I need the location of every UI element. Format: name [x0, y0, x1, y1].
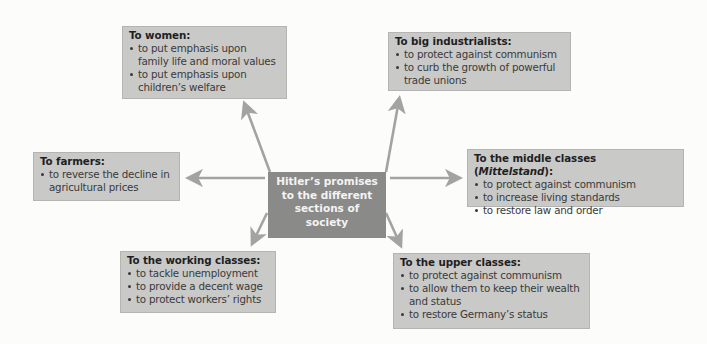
industrialists-promises-box: To big industrialists: to protect agains…	[388, 32, 571, 91]
industrialists-list: to protect against communism to curb the…	[395, 48, 565, 87]
list-item: to put emphasis upon children’s welfare	[129, 68, 281, 94]
title-text: ):	[544, 165, 553, 177]
list-item: to restore law and order	[474, 204, 678, 217]
list-item: to restore Germany’s status	[400, 308, 584, 321]
item-text: to tackle unemployment	[136, 267, 258, 279]
working-classes-promises-box: To the working classes: to tackle unempl…	[120, 251, 276, 313]
item-text: to restore Germany’s status	[409, 308, 548, 320]
item-text: to provide a decent wage	[136, 280, 263, 292]
central-topic-line: to the different	[272, 189, 382, 203]
list-item: to protect against communism	[395, 48, 565, 61]
central-topic-line: society	[272, 216, 382, 230]
arrow-to-working	[253, 213, 267, 242]
item-text: to protect against communism	[404, 48, 557, 60]
arrow-to-industrialists	[386, 100, 399, 172]
upper-classes-title: To the upper classes:	[400, 256, 584, 269]
list-item: to protect workers’ rights	[127, 293, 270, 306]
item-text: to put emphasis upon	[138, 68, 246, 80]
item-text: children’s welfare	[138, 81, 226, 93]
arrow-to-women	[245, 105, 270, 172]
list-item: to allow them to keep their wealth and s…	[400, 282, 584, 308]
item-text: to curb the growth of powerful	[404, 61, 555, 73]
middle-classes-title: To the middle classes (Mittelstand):	[474, 152, 678, 178]
middle-classes-promises-box: To the middle classes (Mittelstand): to …	[467, 149, 684, 207]
list-item: to put emphasis upon family life and mor…	[129, 42, 281, 68]
item-text: and status	[409, 295, 461, 307]
middle-classes-list: to protect against communism to increase…	[474, 178, 678, 217]
arrow-to-upper	[386, 213, 400, 244]
women-list: to put emphasis upon family life and mor…	[129, 42, 281, 94]
item-text: agricultural prices	[49, 181, 138, 193]
item-text: to protect against communism	[483, 178, 636, 190]
list-item: to protect against communism	[474, 178, 678, 191]
list-item: to reverse the decline in agricultural p…	[40, 168, 174, 194]
central-topic-line: Hitler’s promises	[272, 175, 382, 189]
working-classes-title: To the working classes:	[127, 254, 270, 267]
working-classes-list: to tackle unemployment to provide a dece…	[127, 267, 270, 306]
item-text: to protect against communism	[409, 269, 562, 281]
item-text: to protect workers’ rights	[136, 293, 261, 305]
item-text: trade unions	[404, 74, 466, 86]
list-item: to tackle unemployment	[127, 267, 270, 280]
women-promises-box: To women: to put emphasis upon family li…	[122, 26, 287, 99]
farmers-list: to reverse the decline in agricultural p…	[40, 168, 174, 194]
title-italic-term: Mittelstand	[479, 165, 545, 177]
list-item: to protect against communism	[400, 269, 584, 282]
industrialists-title: To big industrialists:	[395, 35, 565, 48]
item-text: to increase living standards	[483, 191, 620, 203]
women-title: To women:	[129, 29, 281, 42]
item-text: family life and moral values	[138, 55, 276, 67]
list-item: to provide a decent wage	[127, 280, 270, 293]
item-text: to restore law and order	[483, 204, 602, 216]
farmers-promises-box: To farmers: to reverse the decline in ag…	[33, 152, 180, 201]
list-item: to curb the growth of powerful trade uni…	[395, 61, 565, 87]
item-text: to allow them to keep their wealth	[409, 282, 579, 294]
list-item: to increase living standards	[474, 191, 678, 204]
item-text: to reverse the decline in	[49, 168, 170, 180]
item-text: to put emphasis upon	[138, 42, 246, 54]
upper-classes-promises-box: To the upper classes: to protect against…	[393, 253, 590, 329]
farmers-title: To farmers:	[40, 155, 174, 168]
upper-classes-list: to protect against communism to allow th…	[400, 269, 584, 321]
central-topic-line: sections of	[272, 202, 382, 216]
central-topic-box: Hitler’s promises to the different secti…	[268, 172, 386, 238]
